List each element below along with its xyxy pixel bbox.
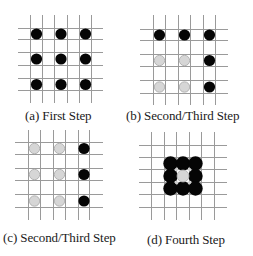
gray-dot — [154, 55, 164, 65]
black-dot — [55, 28, 66, 39]
black-dot — [80, 79, 91, 90]
black-dot — [78, 195, 89, 206]
black-dot — [55, 53, 66, 64]
panel-c: (c) Second/Third Step — [0, 128, 126, 256]
caption-a: (a) First Step — [25, 108, 91, 124]
black-dot — [204, 29, 215, 40]
gray-dot — [29, 143, 39, 153]
black-dot — [154, 29, 165, 40]
black-dot — [31, 53, 42, 64]
black-dot — [31, 28, 42, 39]
intersection-marker — [188, 168, 191, 171]
black-dot — [176, 156, 190, 170]
caption-c: (c) Second/Third Step — [3, 230, 116, 246]
black-dot — [204, 81, 215, 92]
gray-dot — [29, 169, 39, 179]
panel-d: (d) Fourth Step — [126, 128, 253, 256]
black-dot — [163, 169, 177, 183]
dots — [163, 156, 202, 195]
gray-dot — [54, 196, 64, 206]
black-dot — [188, 169, 202, 183]
black-dot — [78, 143, 89, 154]
intersection-marker — [175, 168, 178, 171]
caption-b: (b) Second/Third Step — [126, 108, 239, 124]
black-dot — [31, 79, 42, 90]
black-dot — [55, 79, 66, 90]
gray-dot — [54, 143, 64, 153]
gray-dot — [54, 169, 64, 179]
gray-dot — [179, 55, 189, 65]
black-dot — [204, 55, 215, 66]
intersection-marker — [188, 181, 191, 184]
black-dot — [179, 29, 190, 40]
panel-a: (a) First Step — [0, 0, 126, 128]
black-dot — [80, 53, 91, 64]
dots — [31, 28, 91, 90]
black-dot — [78, 169, 89, 180]
intersection-marker — [175, 181, 178, 184]
dots — [29, 143, 89, 207]
dots — [154, 29, 215, 92]
gray-dot — [177, 170, 189, 182]
panel-b: (b) Second/Third Step — [126, 0, 253, 128]
black-dot — [176, 181, 190, 195]
gray-dot — [154, 82, 164, 92]
gray-dot — [29, 196, 39, 206]
black-dot — [80, 28, 91, 39]
caption-d: (d) Fourth Step — [147, 232, 225, 248]
gray-dot — [179, 82, 189, 92]
